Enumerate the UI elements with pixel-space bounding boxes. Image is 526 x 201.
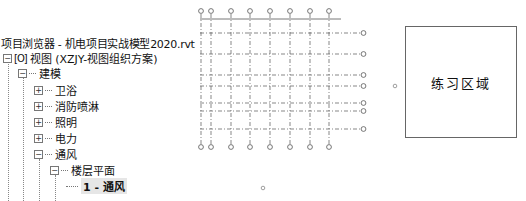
grid-bubble[interactable] xyxy=(199,9,204,14)
grid-bubble[interactable] xyxy=(288,145,293,150)
grid-bubble[interactable] xyxy=(361,73,366,78)
grid-bubble[interactable] xyxy=(361,31,366,36)
grid-bubble[interactable] xyxy=(361,84,366,89)
grid-bubble[interactable] xyxy=(327,9,332,14)
grid-bubble[interactable] xyxy=(268,145,273,150)
grid-bubble[interactable] xyxy=(361,52,366,57)
grid-bubble[interactable] xyxy=(361,109,366,114)
elevation-marker[interactable] xyxy=(261,186,265,190)
grid-bubble[interactable] xyxy=(248,145,253,150)
grid-bubble[interactable] xyxy=(268,9,273,14)
grid-bubble[interactable] xyxy=(209,145,214,150)
grid-bubble[interactable] xyxy=(327,145,332,150)
grid-bubble[interactable] xyxy=(308,9,313,14)
practice-area-label: 练习区域 xyxy=(431,73,491,92)
elevation-marker[interactable] xyxy=(393,84,397,88)
grid-bubble[interactable] xyxy=(308,145,313,150)
grid-bubble[interactable] xyxy=(361,101,366,106)
grid-bubble[interactable] xyxy=(288,9,293,14)
grid-bubble[interactable] xyxy=(361,127,366,132)
grid-bubble[interactable] xyxy=(199,145,204,150)
practice-area: 练习区域 xyxy=(405,26,517,138)
grid-bubble[interactable] xyxy=(229,9,234,14)
grid-bubble[interactable] xyxy=(209,9,214,14)
grid-bubble[interactable] xyxy=(248,9,253,14)
grid-bubble[interactable] xyxy=(229,145,234,150)
